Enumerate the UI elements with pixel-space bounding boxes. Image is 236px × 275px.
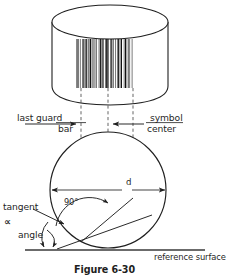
label-symbol: symbol: [150, 113, 183, 122]
angle-leader: [47, 230, 55, 247]
figure-caption: Figure 6-30: [74, 265, 135, 275]
label-reference-surface: reference surface: [154, 253, 226, 261]
figure-6-30: last guard bar symbol center d 90° tange…: [0, 0, 236, 275]
cylinder-body: [52, 5, 168, 105]
label-diameter: d: [126, 178, 131, 187]
arrow-angle-label: [47, 230, 55, 247]
label-tangent: tangent: [3, 202, 38, 211]
label-center: center: [147, 124, 176, 133]
label-last-guard: last guard: [17, 113, 62, 122]
label-right-angle: 90°: [64, 198, 78, 206]
label-bar: bar: [58, 124, 73, 133]
label-alpha-symbol: ∝: [4, 217, 11, 227]
label-angle: angle: [18, 230, 43, 239]
cylinder-top-ellipse: [52, 5, 168, 39]
